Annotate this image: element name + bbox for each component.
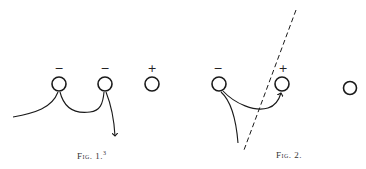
charge-circle-1 bbox=[52, 77, 66, 91]
figure-1-caption: Fig. 1.3 bbox=[77, 150, 107, 161]
figure-2-caption: Fig. 2. bbox=[276, 150, 302, 160]
charge-sign-2: − bbox=[100, 62, 109, 75]
figure-1-caption-text: Fig. 1. bbox=[77, 151, 103, 161]
figure-2-caption-text: Fig. 2. bbox=[276, 150, 302, 160]
figure-2: − + bbox=[212, 10, 357, 150]
charge-circle-5 bbox=[275, 77, 289, 91]
field-line-left bbox=[13, 92, 58, 117]
field-line-arc bbox=[223, 91, 281, 109]
field-line-arrow bbox=[106, 92, 115, 136]
field-line-down bbox=[221, 92, 238, 143]
field-line-connect bbox=[60, 92, 104, 112]
charge-circle-6 bbox=[344, 82, 357, 95]
figure-1-footnote-ref: 3 bbox=[103, 150, 107, 156]
charge-sign-1: − bbox=[54, 62, 63, 75]
charge-sign-5: + bbox=[278, 62, 287, 75]
charge-circle-3 bbox=[145, 77, 159, 91]
charge-circle-4 bbox=[212, 77, 226, 91]
charge-circle-2 bbox=[98, 77, 112, 91]
diagram-canvas: − − + − + bbox=[0, 0, 366, 169]
charge-sign-3: + bbox=[147, 62, 156, 75]
figure-1: − − + bbox=[13, 62, 159, 136]
charge-sign-4: − bbox=[213, 62, 222, 75]
